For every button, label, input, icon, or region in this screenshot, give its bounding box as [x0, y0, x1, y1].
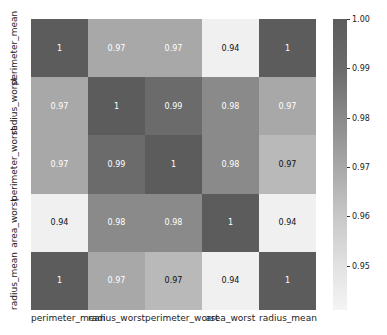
colorbar-tick-mark — [347, 118, 350, 119]
heatmap-cell: 0.97 — [31, 135, 88, 193]
heatmap-cell: 0.98 — [202, 77, 259, 135]
x-axis-label: radius_worst — [88, 313, 145, 323]
y-axis-label: radius_mean — [0, 252, 28, 310]
colorbar-tick-label: 0.96 — [352, 212, 370, 221]
colorbar-tick-label: 0.99 — [352, 64, 370, 73]
heatmap-cell: 1 — [259, 19, 316, 77]
heatmap-cell: 0.94 — [202, 252, 259, 310]
x-axis-label: perimeter_mean — [31, 313, 88, 323]
heatmap-cell: 1 — [88, 77, 145, 135]
heatmap-cell: 0.97 — [88, 252, 145, 310]
y-axis-label-text: radius_mean — [9, 252, 19, 310]
heatmap-cell: 0.97 — [259, 135, 316, 193]
colorbar-tick-mark — [347, 19, 350, 20]
heatmap-cell: 0.94 — [259, 194, 316, 252]
colorbar-tick-mark — [347, 167, 350, 168]
colorbar-tick-mark — [347, 216, 350, 217]
y-axis-label-text: area_worst — [9, 198, 19, 247]
heatmap-cell: 1 — [145, 135, 202, 193]
colorbar-tick-label: 0.95 — [352, 261, 370, 270]
heatmap-cell: 0.97 — [259, 77, 316, 135]
heatmap-cell: 0.98 — [88, 194, 145, 252]
colorbar-tick-label: 0.98 — [352, 113, 370, 122]
colorbar-tick-mark — [347, 266, 350, 267]
heatmap-cell: 1 — [31, 19, 88, 77]
y-axis-label: perimeter_worst — [0, 135, 28, 193]
heatmap-cell: 0.99 — [88, 135, 145, 193]
heatmap-cell: 1 — [259, 252, 316, 310]
x-axis-label: area_worst — [202, 313, 259, 323]
y-axis-label-text: perimeter_mean — [9, 11, 19, 86]
heatmap-cell: 0.98 — [202, 135, 259, 193]
heatmap-grid: 10.970.970.9410.9710.990.980.970.970.991… — [31, 19, 316, 310]
heatmap-cell: 1 — [202, 194, 259, 252]
heatmap-cell: 0.98 — [145, 194, 202, 252]
colorbar-tick-label: 1.00 — [352, 15, 370, 24]
heatmap-cell: 0.94 — [202, 19, 259, 77]
colorbar-tick-mark — [347, 68, 350, 69]
heatmap-cell: 1 — [31, 252, 88, 310]
colorbar — [333, 19, 347, 310]
heatmap-cell: 0.97 — [88, 19, 145, 77]
heatmap-cell: 0.97 — [145, 19, 202, 77]
heatmap-cell: 0.97 — [145, 252, 202, 310]
colorbar-tick-label: 0.97 — [352, 162, 370, 171]
y-axis-label-text: perimeter_worst — [9, 127, 19, 201]
y-axis-label: area_worst — [0, 194, 28, 252]
heatmap-cell: 0.97 — [31, 77, 88, 135]
y-axis-label: perimeter_mean — [0, 19, 28, 77]
heatmap-cell: 0.94 — [31, 194, 88, 252]
x-axis-label: radius_mean — [259, 313, 316, 323]
x-axis-label: perimeter_worst — [145, 313, 202, 323]
heatmap-cell: 0.99 — [145, 77, 202, 135]
